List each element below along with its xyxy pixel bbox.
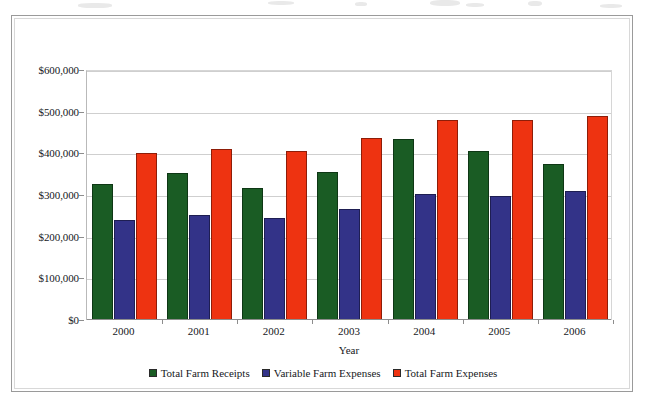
bar: [490, 196, 511, 320]
x-axis-tick-mark: [538, 320, 539, 324]
x-axis-tick-mark: [237, 320, 238, 324]
bar-group: [312, 71, 387, 320]
bar: [189, 215, 210, 320]
legend-label: Variable Farm Expenses: [274, 367, 381, 379]
bar-group: [162, 71, 237, 320]
y-axis-tick-label: $200,000: [39, 231, 79, 243]
y-axis-tick-mark: [79, 70, 84, 71]
legend-item: Total Farm Receipts: [149, 367, 250, 379]
y-axis-tick-mark: [79, 153, 84, 154]
legend-swatch-icon: [393, 369, 401, 377]
legend-swatch-icon: [262, 369, 270, 377]
y-axis-tick-label: $100,000: [39, 272, 79, 284]
chart-inner-border: $0$100,000$200,000$300,000$400,000$500,0…: [14, 18, 630, 389]
bar-group: [87, 71, 162, 320]
x-axis-tick-label: 2002: [263, 325, 285, 337]
y-axis-tick-label: $0: [68, 314, 79, 326]
y-axis: $0$100,000$200,000$300,000$400,000$500,0…: [15, 70, 79, 320]
chart-frame: $0$100,000$200,000$300,000$400,000$500,0…: [11, 15, 633, 392]
bar-group: [237, 71, 312, 320]
y-axis-tick-label: $400,000: [39, 147, 79, 159]
bars-layer: [87, 71, 611, 320]
bar: [136, 153, 157, 320]
bar: [264, 218, 285, 320]
x-axis-tick-mark: [463, 320, 464, 324]
bar-group: [463, 71, 538, 320]
bar: [317, 172, 338, 320]
y-axis-tick-mark: [79, 320, 84, 321]
bar: [512, 120, 533, 320]
x-axis-tick-mark: [162, 320, 163, 324]
bar: [415, 194, 436, 320]
x-axis-tick-labels: 2000200120022003200420052006: [86, 325, 612, 341]
x-axis-tick-label: 2006: [563, 325, 585, 337]
y-axis-tick-mark: [79, 195, 84, 196]
bar-group: [538, 71, 613, 320]
legend-item: Total Farm Expenses: [393, 367, 498, 379]
y-axis-tick-mark: [79, 112, 84, 113]
x-axis-tick-mark: [388, 320, 389, 324]
x-axis-tick-mark: [312, 320, 313, 324]
bar: [167, 173, 188, 320]
x-axis-title: Year: [86, 344, 612, 356]
legend-label: Total Farm Expenses: [405, 367, 498, 379]
y-axis-tick-mark: [79, 237, 84, 238]
y-axis-tick-label: $500,000: [39, 106, 79, 118]
y-axis-tick-mark: [79, 278, 84, 279]
x-axis-line: [87, 319, 611, 320]
bar: [92, 184, 113, 320]
y-axis-tick-label: $300,000: [39, 189, 79, 201]
x-axis-tick-label: 2001: [188, 325, 210, 337]
x-axis-tick-label: 2005: [488, 325, 510, 337]
bar: [361, 138, 382, 321]
bar: [286, 151, 307, 320]
x-axis-tick-label: 2003: [338, 325, 360, 337]
legend-label: Total Farm Receipts: [161, 367, 250, 379]
bar: [543, 164, 564, 320]
plot-area: [86, 70, 612, 320]
chart-legend: Total Farm ReceiptsVariable Farm Expense…: [15, 367, 631, 379]
bar: [211, 149, 232, 320]
x-axis-tick-label: 2000: [113, 325, 135, 337]
legend-swatch-icon: [149, 369, 157, 377]
y-axis-tick-label: $600,000: [39, 64, 79, 76]
bar: [437, 120, 458, 320]
bar: [587, 116, 608, 320]
bar: [393, 139, 414, 320]
legend-item: Variable Farm Expenses: [262, 367, 381, 379]
x-axis-tick-label: 2004: [413, 325, 435, 337]
bar-group: [388, 71, 463, 320]
bar: [114, 220, 135, 320]
bar: [565, 191, 586, 320]
bar: [242, 188, 263, 321]
bar: [468, 151, 489, 320]
x-axis-tick-mark: [613, 320, 614, 324]
scan-artifacts: [0, 0, 646, 14]
bar: [339, 209, 360, 320]
